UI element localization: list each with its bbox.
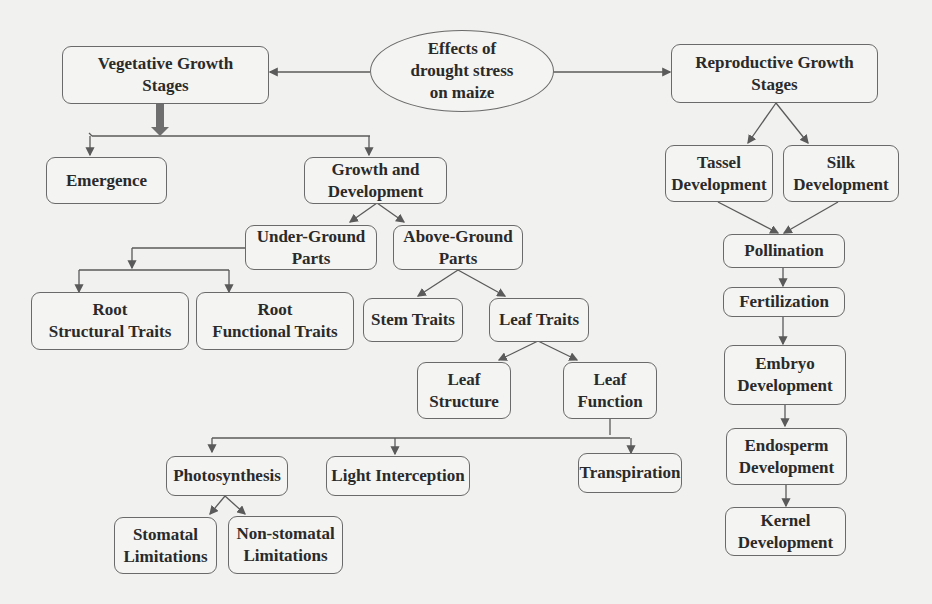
silk-development-node: Silk Development	[783, 145, 899, 202]
above-ground-parts-node: Above-Ground Parts	[393, 225, 523, 270]
photosynthesis-node: Photosynthesis	[166, 456, 288, 496]
tassel-development-node: Tassel Development	[665, 145, 773, 202]
pollination-node: Pollination	[723, 234, 845, 268]
vegetative-growth-stages-node: Vegetative Growth Stages	[62, 46, 269, 104]
stomatal-limitations-node: Stomatal Limitations	[114, 517, 217, 574]
kernel-development-node: Kernel Development	[725, 507, 846, 556]
root-functional-traits-node: Root Functional Traits	[196, 292, 354, 350]
endosperm-development-node: Endosperm Development	[726, 428, 847, 485]
fertilization-node: Fertilization	[723, 287, 845, 317]
transpiration-node: Transpiration	[578, 453, 682, 493]
under-ground-parts-node: Under-Ground Parts	[245, 225, 377, 270]
reproductive-growth-stages-node: Reproductive Growth Stages	[671, 44, 878, 103]
leaf-traits-node: Leaf Traits	[489, 298, 589, 342]
root-node-drought-stress: Effects of drought stress on maize	[370, 30, 554, 112]
stem-traits-node: Stem Traits	[363, 298, 463, 342]
root-structural-traits-node: Root Structural Traits	[31, 292, 189, 350]
non-stomatal-limitations-node: Non-stomatal Limitations	[228, 516, 343, 574]
growth-development-node: Growth and Development	[304, 157, 447, 204]
leaf-structure-node: Leaf Structure	[417, 362, 511, 419]
emergence-node: Emergence	[46, 157, 167, 204]
embryo-development-node: Embryo Development	[724, 345, 846, 405]
light-interception-node: Light Interception	[326, 456, 470, 496]
leaf-function-node: Leaf Function	[563, 362, 657, 419]
